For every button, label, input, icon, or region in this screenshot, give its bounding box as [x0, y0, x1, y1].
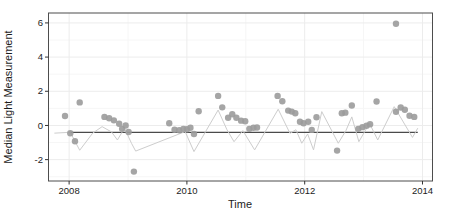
data-point [305, 118, 311, 124]
data-point [342, 109, 348, 115]
x-axis-title: Time [228, 198, 252, 210]
data-point [292, 110, 298, 116]
data-point [334, 147, 340, 153]
data-point [402, 107, 408, 113]
scatter-plot-figure: 2008201020122014-20246 Time Median Light… [0, 0, 455, 216]
data-point [219, 104, 225, 110]
data-point [72, 138, 78, 144]
data-point [367, 121, 373, 127]
data-point [166, 120, 172, 126]
plot-canvas: 2008201020122014-20246 Time Median Light… [0, 0, 455, 216]
x-tick-label: 2008 [59, 185, 80, 196]
data-point [393, 109, 399, 115]
data-point [195, 108, 201, 114]
data-point [131, 168, 137, 174]
x-tick-label: 2014 [412, 185, 433, 196]
data-point [349, 102, 355, 108]
grid-major-lines [49, 13, 433, 181]
data-point [309, 127, 315, 133]
y-tick-label: 6 [38, 17, 43, 28]
axis-ticks [45, 23, 422, 185]
data-point [215, 93, 221, 99]
panel-border [49, 13, 433, 181]
y-tick-label: 2 [38, 85, 43, 96]
data-point [393, 21, 399, 27]
data-point [125, 129, 131, 135]
data-point [62, 113, 68, 119]
data-point [411, 114, 417, 120]
grid-minor-lines [49, 13, 433, 181]
data-point [67, 130, 73, 136]
data-point [279, 98, 285, 104]
data-point [313, 114, 319, 120]
data-point [77, 99, 83, 105]
scatter-points-layer [62, 21, 418, 175]
y-tick-label: 4 [38, 51, 43, 62]
axis-tick-labels: 2008201020122014-20246 [35, 17, 434, 196]
y-tick-label: -2 [35, 154, 43, 165]
data-point [122, 122, 128, 128]
x-tick-label: 2012 [294, 185, 315, 196]
data-point [191, 131, 197, 137]
data-point [242, 118, 248, 124]
x-tick-label: 2010 [176, 185, 197, 196]
data-point [111, 117, 117, 123]
y-tick-label: 0 [38, 120, 43, 131]
data-point [373, 98, 379, 104]
data-point [254, 124, 260, 130]
data-point [274, 93, 280, 99]
y-axis-title: Median Light Measurement [2, 30, 14, 163]
data-point [187, 124, 193, 130]
